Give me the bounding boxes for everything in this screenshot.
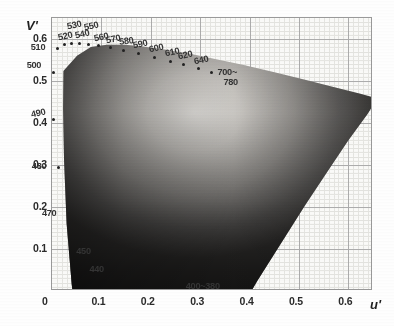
wavelength-label-510: 510: [31, 42, 45, 52]
x-axis-tick-label: 0.1: [91, 295, 105, 307]
x-axis-tick-label: 0.3: [190, 295, 204, 307]
gamut-region: [52, 18, 371, 289]
y-axis-title: V': [26, 18, 38, 33]
y-axis-tick-label: 0.5: [19, 74, 47, 86]
wavelength-label-450: 450: [76, 246, 90, 256]
wavelength-label-500: 500: [27, 60, 41, 70]
locus-marker-dot: [153, 56, 156, 59]
wavelength-label-440: 440: [89, 264, 103, 274]
x-axis-tick-label: 0.5: [289, 295, 303, 307]
locus-marker-dot: [210, 71, 213, 74]
wavelength-label-470: 470: [42, 208, 56, 218]
y-axis-tick-label: 0.1: [19, 242, 47, 254]
x-axis-tick-label: 0.4: [240, 295, 254, 307]
wavelength-label-480: 480: [32, 161, 46, 171]
x-axis-tick-label: 0.2: [141, 295, 155, 307]
wavelength-label-700-: 700~: [218, 67, 238, 77]
wavelength-label-780: 780: [224, 77, 238, 87]
spectral-locus-shape: [52, 18, 372, 290]
plot-area: [51, 17, 372, 290]
locus-marker-dot: [182, 63, 185, 66]
locus-marker-dot: [52, 71, 55, 74]
locus-marker-dot: [137, 52, 140, 55]
locus-marker-dot: [169, 60, 172, 63]
wavelength-label-400-380: 400~380: [186, 281, 220, 291]
x-axis-tick-label: 0: [42, 295, 48, 307]
chromaticity-diagram-figure: V' u': [0, 0, 394, 326]
x-axis-title: u': [370, 297, 381, 312]
x-axis-tick-label: 0.6: [338, 295, 352, 307]
